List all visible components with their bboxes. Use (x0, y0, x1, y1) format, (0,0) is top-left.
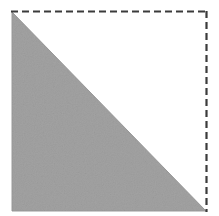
figure-svg (0, 0, 219, 216)
figure-canvas: Shaded right triangle inscribed in a das… (0, 0, 219, 216)
